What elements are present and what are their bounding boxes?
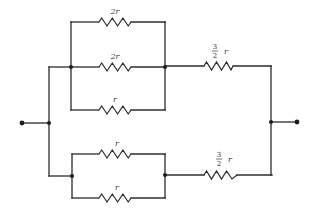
resistor-R7: 3 2 r — [165, 151, 272, 179]
resistor-R4-numerator: 3 — [213, 43, 217, 51]
junction-upper-left — [69, 65, 73, 69]
junction-lower-left — [70, 174, 74, 178]
junction-upper-right — [163, 65, 167, 69]
resistor-R5-label: r — [115, 139, 120, 148]
left-terminal — [20, 121, 25, 126]
resistor-R3: r — [71, 95, 165, 114]
resistor-R4-variable: r — [224, 47, 229, 56]
resistor-R7-numerator: 3 — [217, 151, 221, 159]
resistor-R5: r — [72, 139, 165, 158]
junction-lower-right — [163, 173, 167, 177]
junction-right-main — [269, 120, 273, 124]
resistor-R1-label: 2r — [110, 7, 121, 16]
resistor-R2: 2r — [71, 52, 165, 71]
resistor-R4: 3 2 r — [165, 43, 271, 70]
resistor-R7-variable: r — [228, 155, 233, 164]
resistor-R2-label: 2r — [110, 52, 121, 61]
resistor-R1: 2r — [71, 7, 165, 26]
resistor-R6: r — [72, 183, 165, 202]
circuit-diagram: 2r 2r r 3 2 r r r — [0, 0, 312, 213]
resistor-R7-denominator: 2 — [217, 160, 221, 168]
resistor-R6-label: r — [115, 183, 120, 192]
junction-left-main — [47, 121, 51, 125]
resistor-R3-label: r — [113, 95, 118, 104]
right-terminal — [295, 120, 300, 125]
resistor-R4-denominator: 2 — [213, 52, 217, 60]
circuit-svg: 2r 2r r 3 2 r r r — [0, 0, 312, 213]
